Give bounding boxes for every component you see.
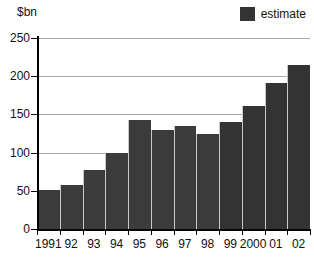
y-tick-label-0: 0 (0, 223, 30, 235)
bar-95 (128, 120, 151, 229)
y-tick-label-100: 100 (0, 147, 30, 159)
bar-02 (287, 65, 310, 229)
x-tick-93 (83, 229, 84, 235)
y-tick-label-150: 150 (0, 108, 30, 120)
x-tick-2000 (242, 229, 243, 235)
bar-2000 (242, 106, 265, 229)
x-tick-label-96: 96 (155, 238, 168, 251)
y-tick-label-wrap-200: 200 (0, 70, 30, 82)
bar-01 (265, 83, 288, 229)
legend-swatch-estimate (240, 7, 255, 21)
x-tick-label-2000: 2000 (240, 238, 267, 251)
bar-94 (105, 153, 128, 229)
y-tick-label-250: 250 (0, 32, 30, 44)
plot-area (37, 38, 310, 229)
bar-93 (83, 170, 106, 229)
y-axis-title: $bn (17, 6, 37, 19)
x-tick-96 (151, 229, 152, 235)
y-tick-250 (31, 38, 37, 39)
y-tick-label-wrap-150: 150 (0, 108, 30, 120)
y-tick-50 (31, 191, 37, 192)
x-tick-label-95: 95 (133, 238, 146, 251)
bar-97 (174, 126, 197, 229)
bar-series (37, 38, 310, 229)
x-tick-end (310, 229, 311, 235)
chart-legend: estimate (240, 6, 306, 22)
x-tick-label-98: 98 (201, 238, 214, 251)
x-tick-label-02: 02 (292, 238, 305, 251)
y-tick-100 (31, 153, 37, 154)
bar-chart: estimate $bn 050100150200250 19919293949… (0, 0, 314, 264)
bar-99 (219, 122, 242, 229)
x-tick-97 (174, 229, 175, 235)
bar-96 (151, 130, 174, 229)
y-tick-150 (31, 114, 37, 115)
x-tick-94 (105, 229, 106, 235)
y-tick-label-50: 50 (0, 185, 30, 197)
x-tick-label-94: 94 (110, 238, 123, 251)
x-tick-95 (128, 229, 129, 235)
y-tick-label-wrap-250: 250 (0, 32, 30, 44)
x-tick-label-92: 92 (64, 238, 77, 251)
bar-98 (196, 134, 219, 229)
x-tick-99 (219, 229, 220, 235)
y-tick-label-wrap-0: 0 (0, 223, 30, 235)
x-tick-label-97: 97 (178, 238, 191, 251)
y-tick-label-200: 200 (0, 70, 30, 82)
bar-92 (60, 185, 83, 229)
y-tick-200 (31, 76, 37, 77)
x-tick-02 (287, 229, 288, 235)
y-tick-label-wrap-50: 50 (0, 185, 30, 197)
x-tick-1991 (37, 229, 38, 235)
x-tick-label-1991: 1991 (35, 238, 62, 251)
x-tick-label-93: 93 (87, 238, 100, 251)
x-tick-01 (265, 229, 266, 235)
y-tick-label-wrap-100: 100 (0, 147, 30, 159)
bar-1991 (37, 190, 60, 229)
x-tick-98 (196, 229, 197, 235)
x-tick-92 (60, 229, 61, 235)
y-axis-line (37, 36, 39, 231)
x-tick-label-01: 01 (269, 238, 282, 251)
legend-label-estimate: estimate (261, 7, 306, 21)
x-tick-label-99: 99 (224, 238, 237, 251)
